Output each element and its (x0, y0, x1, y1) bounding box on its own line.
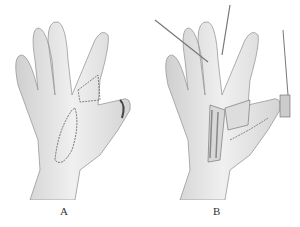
panel-a-hand-illustration (0, 0, 150, 200)
hand-b-icon (150, 0, 300, 200)
panel-b-hand-illustration (150, 0, 300, 200)
panel-a-label: A (60, 205, 68, 217)
panel-b-label: B (213, 205, 220, 217)
hand-a-icon (0, 0, 150, 200)
